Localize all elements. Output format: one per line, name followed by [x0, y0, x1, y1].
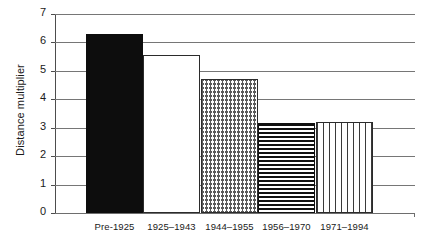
x-category-label-Pre-1925: Pre-1925	[86, 221, 143, 232]
y-tick-mark-2	[51, 156, 55, 157]
y-tick-mark-7	[51, 14, 55, 15]
x-category-label-1925–1943: 1925–1943	[143, 221, 200, 232]
y-tick-label-3: 3	[0, 120, 46, 132]
bar-1971–1994	[316, 122, 373, 213]
y-tick-label-7: 7	[0, 6, 46, 18]
y-tick-mark-5	[51, 71, 55, 72]
bar-1944–1955	[201, 79, 258, 213]
bar-1956–1970	[258, 123, 315, 213]
y-tick-label-6: 6	[0, 34, 46, 46]
y-tick-mark-1	[51, 185, 55, 186]
x-category-label-1956–1970: 1956–1970	[258, 221, 315, 232]
x-category-label-1944–1955: 1944–1955	[201, 221, 258, 232]
y-tick-label-0: 0	[0, 205, 46, 217]
y-tick-mark-6	[51, 42, 55, 43]
y-tick-label-4: 4	[0, 91, 46, 103]
y-tick-label-1: 1	[0, 177, 46, 189]
gridline-7	[55, 14, 415, 15]
y-tick-mark-4	[51, 99, 55, 100]
bar-1925–1943	[143, 55, 200, 213]
y-tick-label-5: 5	[0, 63, 46, 75]
y-tick-mark-3	[51, 128, 55, 129]
gridline-0	[55, 213, 415, 214]
plot-area	[55, 14, 415, 213]
bar-chart: Distance multiplier 01234567 Pre-1925192…	[0, 0, 425, 246]
y-tick-label-2: 2	[0, 148, 46, 160]
x-category-label-1971–1994: 1971–1994	[316, 221, 373, 232]
bar-Pre-1925	[86, 34, 143, 213]
y-tick-mark-0	[51, 213, 55, 214]
